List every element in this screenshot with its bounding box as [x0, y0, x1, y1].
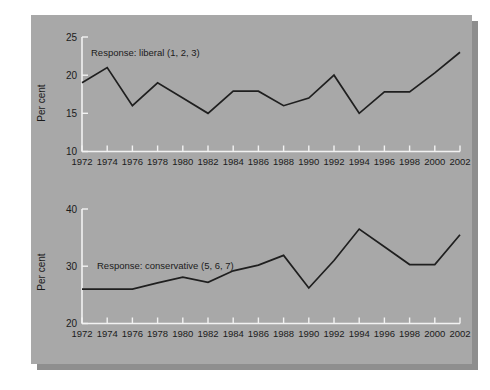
series-annotation-liberal: Response: liberal (1, 2, 3) — [91, 47, 200, 58]
y-axis-title-liberal: Per cent — [36, 84, 47, 121]
x-tick-labels: 1972 1974 1976 1978 1980 1982 1984 1986 … — [71, 328, 470, 339]
svg-text:1976: 1976 — [122, 156, 143, 167]
svg-text:1992: 1992 — [323, 156, 344, 167]
svg-text:1982: 1982 — [197, 328, 218, 339]
svg-text:1974: 1974 — [97, 328, 118, 339]
svg-text:1978: 1978 — [147, 156, 168, 167]
y-axis-title-conservative: Per cent — [36, 253, 47, 290]
chart-panel: Per cent 25 20 15 10 — [31, 15, 472, 364]
data-series-liberal — [82, 52, 460, 113]
svg-text:1988: 1988 — [273, 328, 294, 339]
svg-text:1992: 1992 — [323, 328, 344, 339]
svg-text:1976: 1976 — [122, 328, 143, 339]
y-tick-label: 25 — [66, 32, 78, 43]
svg-text:1986: 1986 — [248, 156, 269, 167]
x-tickmarks — [82, 146, 460, 152]
svg-text:1980: 1980 — [172, 156, 193, 167]
svg-text:2002: 2002 — [449, 328, 470, 339]
y-tick-label: 20 — [66, 70, 78, 81]
svg-text:1978: 1978 — [147, 328, 168, 339]
figure-canvas: Per cent 25 20 15 10 — [0, 0, 490, 390]
x-tick-labels: 1972 1974 1976 1978 1980 1982 1984 1986 … — [71, 156, 470, 167]
svg-text:1996: 1996 — [374, 156, 395, 167]
series-annotation-conservative: Response: conservative (5, 6, 7) — [97, 260, 234, 271]
svg-text:1994: 1994 — [349, 328, 370, 339]
chart-liberal-svg: Per cent 25 20 15 10 — [31, 15, 472, 190]
y-tick-label: 40 — [66, 204, 78, 215]
svg-text:1996: 1996 — [374, 328, 395, 339]
svg-text:1986: 1986 — [248, 328, 269, 339]
svg-text:1984: 1984 — [223, 328, 244, 339]
svg-text:1998: 1998 — [399, 156, 420, 167]
svg-text:1984: 1984 — [223, 156, 244, 167]
y-tick-label: 30 — [66, 261, 78, 272]
svg-text:2002: 2002 — [449, 156, 470, 167]
svg-text:1980: 1980 — [172, 328, 193, 339]
y-tick-label: 15 — [66, 108, 78, 119]
svg-text:1974: 1974 — [97, 156, 118, 167]
chart-liberal: Per cent 25 20 15 10 — [31, 15, 472, 190]
svg-text:1990: 1990 — [298, 328, 319, 339]
svg-text:2000: 2000 — [424, 328, 445, 339]
svg-text:1972: 1972 — [71, 156, 92, 167]
svg-text:1988: 1988 — [273, 156, 294, 167]
svg-text:1990: 1990 — [298, 156, 319, 167]
svg-text:1998: 1998 — [399, 328, 420, 339]
svg-text:1994: 1994 — [349, 156, 370, 167]
svg-text:2000: 2000 — [424, 156, 445, 167]
chart-conservative: Per cent 40 30 20 — [31, 187, 472, 364]
svg-text:1972: 1972 — [71, 328, 92, 339]
x-tickmarks — [82, 318, 460, 324]
svg-text:1982: 1982 — [197, 156, 218, 167]
chart-conservative-svg: Per cent 40 30 20 — [31, 187, 472, 364]
